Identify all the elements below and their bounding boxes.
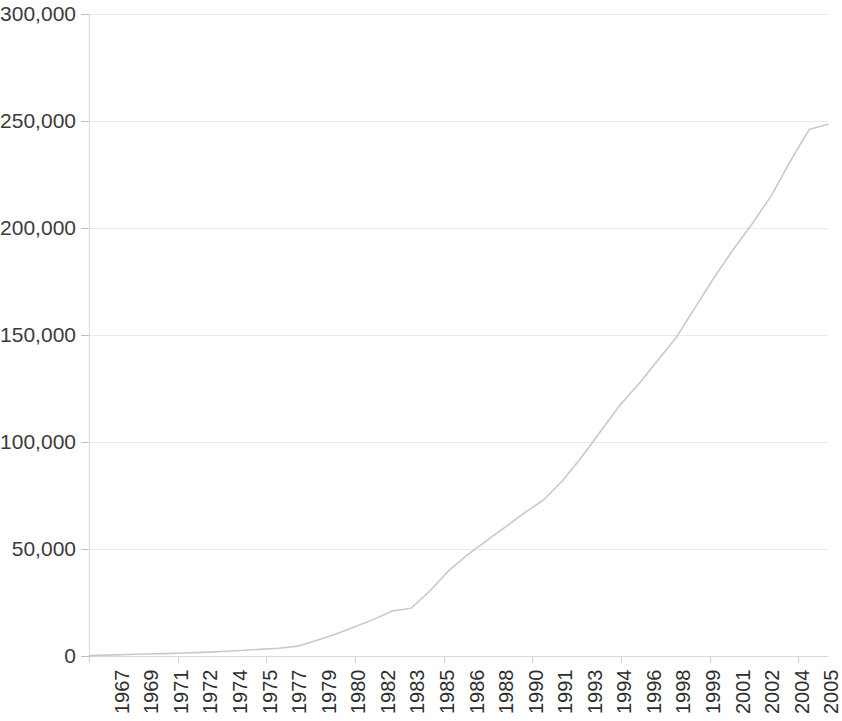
x-axis-tick-label: 1967	[112, 670, 132, 715]
x-axis-tick-label: 1975	[260, 670, 280, 715]
x-axis-tick-label: 1977	[289, 670, 309, 715]
x-axis-tick-label: 1972	[200, 670, 220, 715]
x-axis-tick-label: 1979	[319, 670, 339, 715]
y-axis-tick-label: 250,000	[0, 110, 76, 131]
axes-group	[81, 14, 90, 657]
x-axis-tick-label: 1980	[348, 670, 368, 715]
x-axis-tick-label: 1983	[407, 670, 427, 715]
y-axis-tick-label: 100,000	[0, 431, 76, 452]
x-axis-tick-label: 1969	[141, 670, 161, 715]
y-axis-tick-label: 300,000	[0, 3, 76, 24]
x-axis-tick-label: 1998	[673, 670, 693, 715]
data-series-line	[89, 124, 828, 655]
y-axis-tick-label: 150,000	[0, 324, 76, 345]
y-axis-tick-label: 200,000	[0, 217, 76, 238]
x-axis-tick-label: 1971	[171, 670, 191, 715]
x-axis-tick-label: 2004	[792, 670, 812, 715]
x-axis-tick-label: 2005	[821, 670, 841, 715]
x-axis-tick-label: 1991	[555, 670, 575, 715]
x-axis-tick-label: 1982	[378, 670, 398, 715]
x-axis-tick-label: 1985	[437, 670, 457, 715]
x-tickmarks-group	[90, 656, 799, 663]
x-axis-tick-label: 1996	[644, 670, 664, 715]
gridlines-group	[89, 15, 828, 657]
x-axis-tick-label: 1994	[614, 670, 634, 715]
x-axis-tick-label: 1974	[230, 670, 250, 715]
x-axis-tick-label: 1999	[703, 670, 723, 715]
x-axis-tick-label: 2001	[733, 670, 753, 715]
y-axis-tick-label: 50,000	[12, 538, 76, 559]
x-axis-tick-label: 2002	[762, 670, 782, 715]
x-axis-tick-label: 1988	[496, 670, 516, 715]
x-axis-tick-label: 1993	[585, 670, 605, 715]
x-axis-tick-label: 1986	[467, 670, 487, 715]
y-axis-tick-label: 0	[64, 645, 76, 666]
x-axis-tick-label: 1990	[526, 670, 546, 715]
